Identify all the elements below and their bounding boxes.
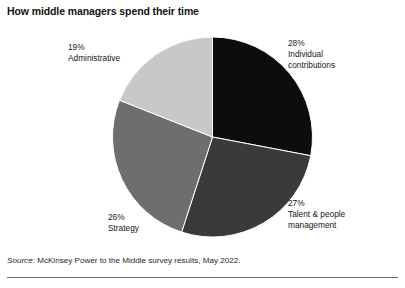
bottom-divider [7, 277, 398, 278]
pie-label-talent-name-line2: management [288, 220, 345, 231]
source-prefix: Source: [7, 256, 35, 265]
pie-label-strategy: 26% Strategy [108, 212, 139, 234]
pie-slice-group [112, 37, 312, 237]
pie-label-individual-name-line2: contributions [288, 60, 335, 71]
pie-label-talent-percent: 27% [288, 198, 345, 209]
pie-label-individual-percent: 28% [288, 38, 335, 49]
source-text: McKinsey Power to the Middle survey resu… [37, 256, 240, 265]
pie-label-administrative-name-line1: Administrative [68, 53, 120, 64]
pie-chart: 28% Individual contributions 27% Talent … [0, 0, 405, 260]
pie-label-talent-name-line1: Talent & people [288, 209, 345, 220]
pie-label-strategy-percent: 26% [108, 212, 139, 223]
pie-label-administrative: 19% Administrative [68, 42, 120, 64]
pie-label-individual-contributions: 28% Individual contributions [288, 38, 335, 72]
source-note: Source: McKinsey Power to the Middle sur… [7, 256, 240, 265]
pie-label-strategy-name-line1: Strategy [108, 223, 139, 234]
pie-label-individual-name-line1: Individual [288, 49, 335, 60]
pie-label-talent-people-management: 27% Talent & people management [288, 198, 345, 232]
pie-label-administrative-percent: 19% [68, 42, 120, 53]
